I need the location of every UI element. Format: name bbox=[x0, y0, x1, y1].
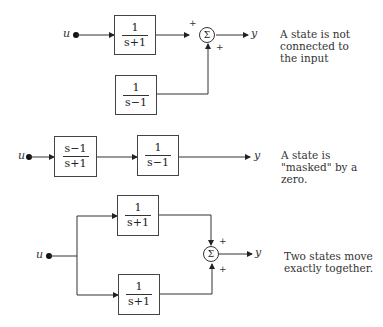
sum-sign: + bbox=[216, 42, 224, 52]
caption: A state is "masked" by a zero. bbox=[281, 149, 357, 185]
summing-junction: Σ bbox=[199, 27, 215, 43]
sum-sign: + bbox=[189, 18, 197, 28]
block-denominator: s+1 bbox=[127, 217, 149, 229]
sum-sign: + bbox=[219, 236, 227, 246]
caption: Two states move exactly together. bbox=[284, 250, 373, 274]
block-numerator: 1 bbox=[133, 202, 144, 214]
block-numerator: 1 bbox=[153, 142, 164, 154]
block-denominator: s+1 bbox=[128, 296, 150, 308]
transfer-block: 1 s+1 bbox=[118, 274, 160, 315]
transfer-block: 1 s+1 bbox=[117, 195, 159, 236]
block-numerator: s−1 bbox=[63, 143, 89, 155]
caption: A state is not connected to the input bbox=[280, 28, 350, 64]
block-denominator: s−1 bbox=[147, 157, 169, 169]
output-label: y bbox=[255, 246, 261, 259]
sum-sign: + bbox=[219, 264, 227, 274]
block-numerator: 1 bbox=[131, 82, 142, 94]
block-numerator: 1 bbox=[130, 22, 141, 34]
summing-junction: Σ bbox=[203, 246, 219, 262]
output-label: y bbox=[254, 149, 260, 162]
transfer-block: s−1 s+1 bbox=[54, 136, 97, 177]
block-denominator: s+1 bbox=[65, 158, 87, 170]
block-numerator: 1 bbox=[134, 281, 145, 293]
transfer-block: 1 s−1 bbox=[115, 75, 157, 115]
output-label: y bbox=[251, 27, 257, 40]
input-label: u bbox=[36, 248, 43, 261]
transfer-block: 1 s−1 bbox=[137, 135, 179, 176]
block-denominator: s−1 bbox=[125, 97, 147, 109]
input-label: u bbox=[63, 27, 70, 40]
input-label: u bbox=[18, 149, 25, 162]
transfer-block: 1 s+1 bbox=[114, 15, 156, 55]
block-denominator: s+1 bbox=[124, 37, 146, 49]
